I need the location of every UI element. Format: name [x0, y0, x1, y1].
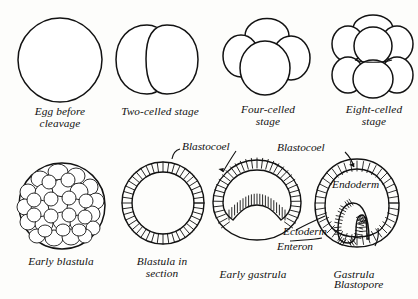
caption-blastula-section: Blastula in section — [112, 255, 212, 280]
annotation-endoderm: Endoderm — [332, 178, 379, 190]
caption-four-cell: Four-celled stage — [221, 103, 315, 128]
annotation-blastocoel-1: Blastocoel — [182, 140, 230, 152]
annotation-blastocoel-2: Blastocoel — [277, 141, 325, 153]
caption-early-blastula: Early blastula — [8, 255, 114, 267]
annotation-blastopore: Blastopore — [334, 278, 383, 290]
annotation-enteron: Enteron — [277, 240, 313, 252]
caption-early-gastrula: Early gastrula — [203, 268, 303, 280]
caption-eight-cell: Eight-celled stage — [330, 103, 418, 128]
annotation-ectoderm: Ectoderm — [283, 225, 327, 237]
caption-egg: Egg before cleavage — [8, 105, 112, 130]
caption-two-cell: Two-celled stage — [107, 105, 213, 117]
